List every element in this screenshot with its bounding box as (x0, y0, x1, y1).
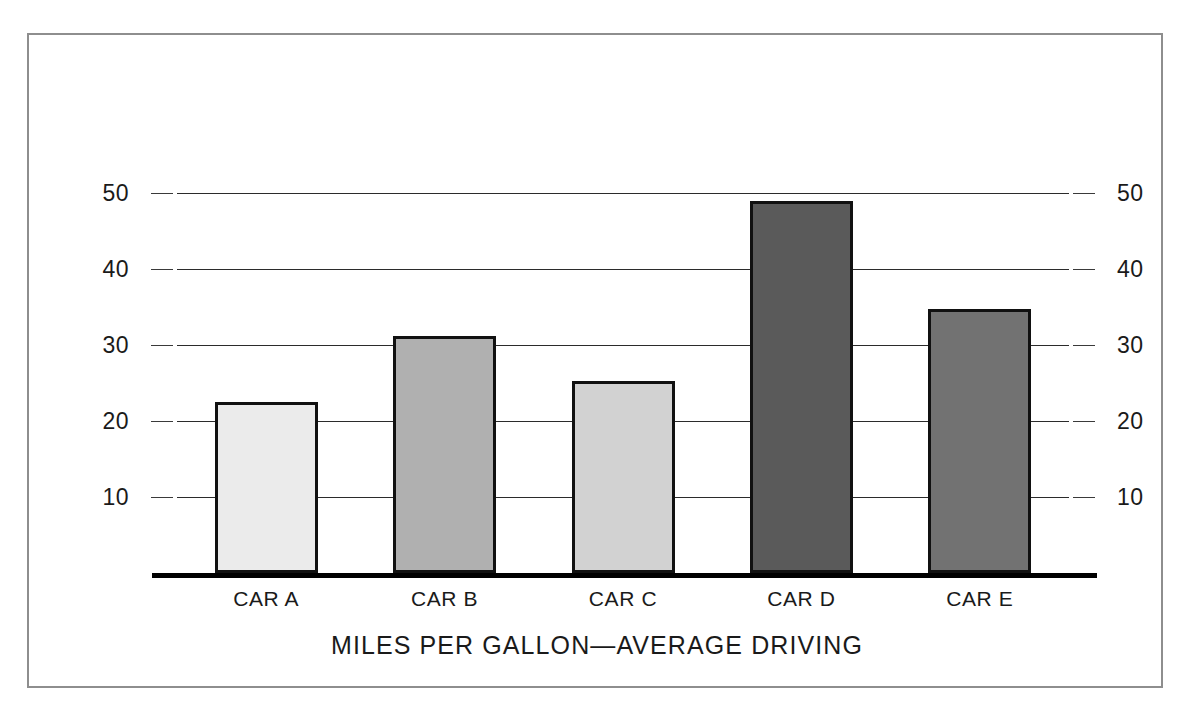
tick-left-10 (151, 497, 173, 498)
y-axis-left-label-40: 40 (102, 258, 129, 281)
x-axis-baseline (152, 573, 1097, 578)
y-axis-right-label-30: 30 (1117, 334, 1144, 357)
tick-left-20 (151, 421, 173, 422)
y-axis-left-label-50: 50 (102, 182, 129, 205)
category-label-car-c: CAR C (534, 587, 712, 611)
chart-frame-border: 50504040303020201010 CAR ACAR BCAR CCAR … (27, 33, 1163, 688)
plot-area: 50504040303020201010 CAR ACAR BCAR CCAR … (177, 155, 1069, 573)
tick-right-20 (1073, 421, 1095, 422)
category-label-car-b: CAR B (355, 587, 533, 611)
tick-right-40 (1073, 269, 1095, 270)
y-axis-left-label-10: 10 (102, 486, 129, 509)
tick-right-30 (1073, 345, 1095, 346)
y-axis-left-label-30: 30 (102, 334, 129, 357)
gridline-40 (177, 269, 1069, 270)
bar-car-c (572, 381, 675, 573)
bar-car-b (393, 336, 496, 573)
bar-car-a (215, 402, 318, 573)
bar-car-e (928, 309, 1031, 573)
y-axis-right-label-40: 40 (1117, 258, 1144, 281)
category-label-car-a: CAR A (177, 587, 355, 611)
category-label-car-e: CAR E (891, 587, 1069, 611)
chart-figure: 50504040303020201010 CAR ACAR BCAR CCAR … (0, 0, 1189, 716)
y-axis-right-label-50: 50 (1117, 182, 1144, 205)
y-axis-right-label-20: 20 (1117, 410, 1144, 433)
tick-right-50 (1073, 193, 1095, 194)
tick-left-40 (151, 269, 173, 270)
y-axis-left-label-20: 20 (102, 410, 129, 433)
y-axis-right-label-10: 10 (1117, 486, 1144, 509)
gridline-50 (177, 193, 1069, 194)
tick-right-10 (1073, 497, 1095, 498)
tick-left-30 (151, 345, 173, 346)
category-label-car-d: CAR D (712, 587, 890, 611)
chart-title: MILES PER GALLON—AVERAGE DRIVING (29, 631, 1165, 660)
tick-left-50 (151, 193, 173, 194)
bar-car-d (750, 201, 853, 573)
